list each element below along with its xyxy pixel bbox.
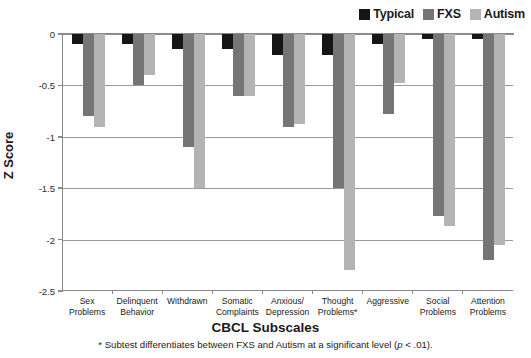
bar-typical	[422, 34, 433, 39]
x-axis-group-tick	[312, 290, 314, 294]
bar-group	[163, 34, 213, 290]
legend-item-typical: Typical	[359, 8, 414, 21]
x-axis-category-label: ThoughtProblems*	[313, 296, 363, 317]
bar-fxs	[233, 34, 244, 96]
bar-fxs	[83, 34, 94, 116]
bar-typical	[322, 34, 333, 55]
bar-fxs	[333, 34, 344, 188]
y-axis-tick-label: -1	[47, 131, 55, 142]
bar-fxs	[283, 34, 294, 127]
x-axis-group-tick	[212, 290, 214, 294]
bar-autism	[144, 34, 155, 75]
plot-area: 0-0.5-1-1.5-2-2.5	[62, 34, 513, 291]
x-axis-category-label: SocialProblems	[413, 296, 463, 317]
bar-group	[413, 34, 463, 290]
chart-legend: TypicalFXSAutism	[359, 8, 525, 21]
x-axis-title: CBCL Subscales	[0, 320, 531, 335]
bar-typical	[122, 34, 133, 44]
bar-fxs	[433, 34, 444, 216]
bar-group	[113, 34, 163, 290]
bar-autism	[444, 34, 455, 226]
bar-fxs	[383, 34, 394, 114]
bar-fxs	[133, 34, 144, 85]
chart-footnote: * Subtest differentiates between FXS and…	[0, 339, 531, 350]
y-axis-tick-label: -1.5	[39, 183, 55, 194]
bar-typical	[472, 34, 483, 39]
legend-swatch-icon	[359, 9, 370, 20]
bar-group	[363, 34, 413, 290]
x-axis-category-label: Anxious/Depression	[262, 296, 312, 317]
x-axis-group-tick	[162, 290, 164, 294]
bar-group	[463, 34, 513, 290]
bar-typical	[272, 34, 283, 55]
y-axis-tick-label: -0.5	[39, 80, 55, 91]
x-axis-group-tick	[462, 290, 464, 294]
y-axis-tick-label: 0	[50, 29, 55, 40]
bar-fxs	[483, 34, 494, 260]
bar-autism	[494, 34, 505, 245]
y-axis-tick-label: -2.5	[39, 286, 55, 297]
bar-typical	[372, 34, 383, 44]
bar-typical	[222, 34, 233, 49]
legend-item-autism: Autism	[470, 8, 525, 21]
bar-typical	[72, 34, 83, 44]
bar-group	[263, 34, 313, 290]
gridline	[63, 291, 513, 292]
cbcl-subscales-bar-chart: TypicalFXSAutism Z Score 0-0.5-1-1.5-2-2…	[0, 0, 531, 358]
x-axis-group-tick	[262, 290, 264, 294]
bar-autism	[394, 34, 405, 83]
bar-autism	[294, 34, 305, 124]
y-axis-tick	[58, 290, 63, 292]
x-axis-category-label: Withdrawn	[162, 296, 212, 317]
x-axis-group-tick	[112, 290, 114, 294]
x-axis-group-tick	[362, 290, 364, 294]
y-axis-title: Z Score	[1, 132, 16, 180]
legend-item-fxs: FXS	[423, 8, 461, 21]
bar-typical	[172, 34, 183, 49]
legend-swatch-icon	[423, 9, 434, 20]
x-axis-group-tick	[412, 290, 414, 294]
x-axis-category-label: AttentionProblems	[463, 296, 513, 317]
legend-swatch-icon	[470, 9, 481, 20]
legend-label: Autism	[484, 8, 525, 21]
bar-group	[63, 34, 113, 290]
x-axis-category-label: Aggressive	[363, 296, 413, 317]
x-axis-category-label: DelinquentBehavior	[112, 296, 162, 317]
y-axis-tick-label: -2	[47, 234, 55, 245]
bar-fxs	[183, 34, 194, 147]
legend-label: Typical	[373, 8, 414, 21]
x-axis-category-label: SexProblems	[62, 296, 112, 317]
bar-autism	[94, 34, 105, 127]
bar-group	[213, 34, 263, 290]
bar-autism	[194, 34, 205, 188]
footnote-text-after: < .01).	[403, 339, 433, 350]
bar-autism	[244, 34, 255, 96]
x-axis-tick-labels: SexProblemsDelinquentBehaviorWithdrawnSo…	[62, 296, 513, 317]
bar-groups	[63, 34, 513, 290]
footnote-text-before: Subtest differentiates between FXS and A…	[102, 339, 397, 350]
legend-label: FXS	[437, 8, 461, 21]
bar-autism	[344, 34, 355, 270]
x-axis-category-label: SomaticComplaints	[212, 296, 262, 317]
bar-group	[313, 34, 363, 290]
